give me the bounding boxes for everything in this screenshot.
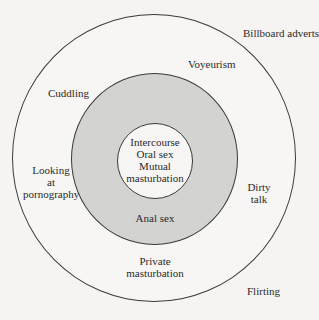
label-line: masturbation	[112, 267, 198, 279]
label-billboard-adverts: Billboard adverts	[243, 27, 319, 39]
label-cuddling: Cuddling	[48, 87, 89, 99]
label-line: pornography	[23, 188, 79, 200]
label-core-activities: Intercourse Oral sex Mutual masturbation	[117, 136, 193, 184]
label-line: at	[23, 176, 79, 188]
label-line: talk	[244, 193, 274, 205]
label-line: Private	[112, 255, 198, 267]
label-line: Oral sex	[117, 148, 193, 160]
label-line: Dirty	[244, 181, 274, 193]
concentric-diagram: Billboard adverts Voyeurism Cuddling Loo…	[0, 0, 319, 320]
label-anal-sex: Anal sex	[117, 212, 193, 224]
label-voyeurism: Voyeurism	[188, 58, 235, 70]
label-dirty-talk: Dirty talk	[244, 181, 274, 205]
label-private-masturbation: Private masturbation	[112, 255, 198, 279]
label-looking-at-pornography: Looking at pornography	[23, 164, 79, 200]
label-line: Looking	[23, 164, 79, 176]
label-flirting: Flirting	[247, 285, 280, 297]
label-line: Mutual	[117, 160, 193, 172]
label-line: masturbation	[117, 172, 193, 184]
label-line: Intercourse	[117, 136, 193, 148]
